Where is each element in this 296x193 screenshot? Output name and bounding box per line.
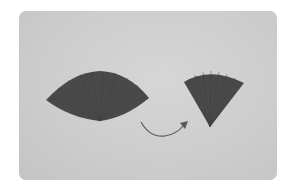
curved-arrow-icon	[141, 121, 188, 136]
wide-fan	[46, 71, 149, 121]
narrow-fan	[184, 71, 244, 127]
illustration	[0, 0, 296, 193]
